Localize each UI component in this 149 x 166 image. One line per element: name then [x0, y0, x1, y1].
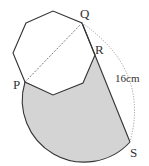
label-length: 16cm — [115, 72, 140, 84]
geometry-diagram: Q R P S 16cm — [0, 0, 149, 166]
label-q: Q — [80, 6, 90, 21]
diagram-canvas: Q R P S 16cm — [0, 0, 149, 166]
label-s: S — [130, 145, 137, 160]
label-p: P — [13, 77, 20, 92]
diagonal-pq — [25, 23, 82, 82]
label-r: R — [95, 42, 104, 57]
shaded-region — [22, 55, 130, 162]
